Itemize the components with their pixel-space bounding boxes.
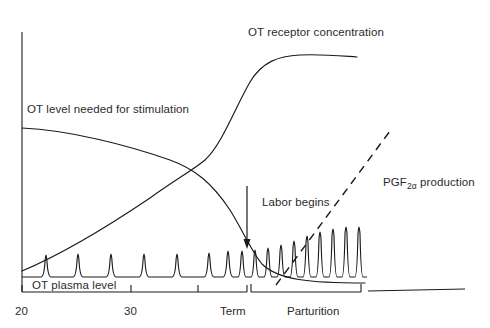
label-ot-plasma-level: OT plasma level	[32, 279, 116, 291]
curve-ot-plasma-level	[22, 227, 367, 277]
x-axis-right	[368, 289, 465, 291]
label-pgf2a-suffix: production	[417, 176, 475, 188]
x-tick-label-20: 20	[15, 305, 28, 317]
curve-pgf2a-production	[276, 131, 390, 285]
label-pgf2a-production: PGF2α production	[383, 176, 475, 191]
x-bracket-label-parturition: Parturition	[287, 305, 339, 317]
label-ot-level-needed: OT level needed for stimulation	[27, 103, 189, 115]
label-labor-begins: Labor begins	[262, 196, 330, 208]
figure-container: OT receptor concentration OT level neede…	[0, 0, 490, 328]
x-tick-label-30: 30	[124, 305, 137, 317]
label-pgf2a-prefix: PGF	[383, 176, 407, 188]
bracket-term	[198, 285, 247, 292]
label-pgf2a-subscript: 2α	[407, 181, 417, 191]
bracket-parturition	[251, 284, 361, 292]
label-ot-receptor-concentration: OT receptor concentration	[248, 26, 384, 38]
labor-begins-arrow	[244, 186, 251, 249]
x-bracket-label-term: Term	[220, 305, 246, 317]
